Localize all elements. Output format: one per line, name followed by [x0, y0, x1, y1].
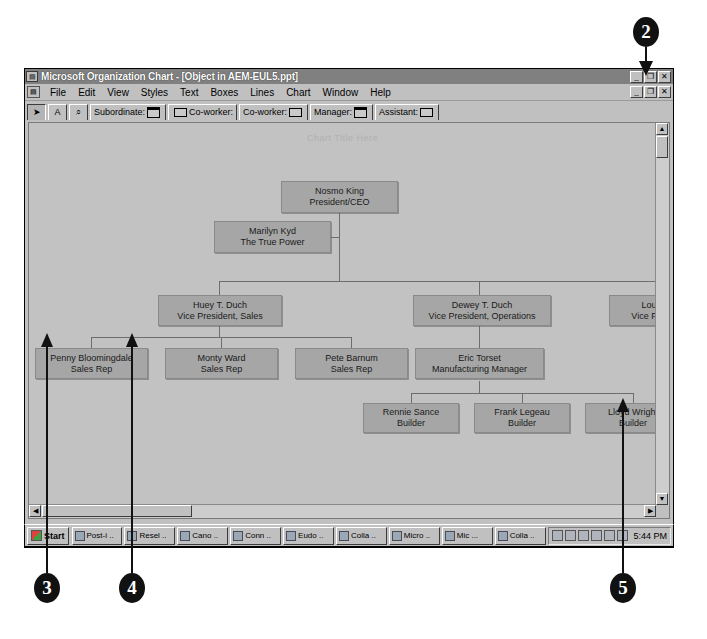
scroll-down-button[interactable]: ▼ — [656, 493, 668, 505]
org-node-builder-frank[interactable]: Frank Legeau Builder — [474, 403, 570, 433]
taskbar-item-label: Conn .. — [245, 531, 271, 540]
scroll-up-button[interactable]: ▲ — [656, 123, 668, 135]
menu-item-edit[interactable]: Edit — [72, 87, 101, 98]
org-node-builder-frank-name: Frank Legeau — [494, 407, 550, 418]
connector-bld1-drop — [411, 393, 412, 403]
text-tool[interactable]: A — [48, 104, 67, 121]
vertical-scroll-thumb[interactable] — [656, 136, 668, 158]
menu-bar: ▤ File Edit View Styles Text Boxes Lines… — [25, 84, 673, 101]
org-chart-icon[interactable]: ▤ — [26, 71, 38, 82]
callout-leader-3 — [46, 345, 48, 573]
menu-item-window[interactable]: Window — [317, 87, 365, 98]
colla-2-icon — [498, 531, 508, 541]
coworker-left-tool-label: Co-worker: — [189, 107, 233, 117]
callout-marker-5: 5 — [610, 573, 636, 603]
clock[interactable]: 5:44 PM — [634, 531, 668, 541]
org-node-vp-three[interactable]: Louie T Vice Preside — [609, 295, 656, 326]
taskbar-item-label: Post-i .. — [87, 531, 114, 540]
org-node-vp-operations[interactable]: Dewey T. Duch Vice President, Operations — [413, 295, 551, 326]
select-arrow-tool[interactable]: ➤ — [27, 104, 46, 121]
zoom-tool[interactable]: ⌕ — [69, 104, 88, 121]
assistant-tool[interactable]: Assistant: — [375, 104, 439, 121]
callout-marker-4: 4 — [119, 573, 145, 603]
org-node-vp-three-title: Vice Preside — [631, 311, 656, 322]
connector-bld2-drop — [522, 393, 523, 403]
callout-arrowhead-5 — [617, 398, 629, 412]
org-node-vp-operations-name: Dewey T. Duch — [452, 300, 512, 311]
org-node-vp-sales[interactable]: Huey T. Duch Vice President, Sales — [158, 295, 282, 326]
mdi-minimize-button[interactable]: _ — [630, 86, 643, 98]
org-node-sales-rep-monty-title: Sales Rep — [201, 364, 243, 375]
org-node-sales-rep-penny-name: Penny Bloomingdale — [50, 353, 133, 364]
menu-item-styles[interactable]: Styles — [135, 87, 174, 98]
mdi-controls: _ ❐ ✕ — [630, 86, 671, 98]
coworker-right-tool[interactable]: Co-worker: — [239, 104, 308, 121]
menu-item-boxes[interactable]: Boxes — [204, 87, 244, 98]
org-node-ceo[interactable]: Nosmo King President/CEO — [281, 181, 398, 213]
org-node-manufacturing-manager[interactable]: Eric Torset Manufacturing Manager — [415, 348, 544, 379]
taskbar-item-mic[interactable]: Mic ... — [442, 527, 493, 545]
coworker-right-tool-label: Co-worker: — [243, 107, 287, 117]
volume-icon[interactable] — [565, 530, 576, 541]
connector-vp-bus — [219, 281, 656, 282]
chart-canvas[interactable]: Chart Title Here — [29, 123, 656, 505]
document-icon[interactable]: ▤ — [27, 86, 40, 98]
client-area: Chart Title Here — [25, 120, 673, 547]
coworker-left-tool[interactable]: Co-worker: — [168, 104, 237, 121]
horizontal-scrollbar[interactable]: ◀ ▶ — [29, 504, 656, 518]
assistant-box-icon — [420, 108, 433, 117]
system-tray: 5:44 PM — [548, 527, 672, 545]
taskbar-item-cano[interactable]: Cano .. — [177, 527, 228, 545]
micro-icon — [392, 531, 402, 541]
mdi-close-button[interactable]: ✕ — [658, 86, 671, 98]
org-node-assistant[interactable]: Marilyn Kyd The True Power — [214, 221, 331, 253]
callout-marker-2: 2 — [633, 17, 659, 47]
org-node-assistant-title: The True Power — [240, 237, 304, 248]
org-node-vp-sales-name: Huey T. Duch — [193, 300, 247, 311]
scroll-right-button[interactable]: ▶ — [644, 505, 656, 517]
org-node-builder-lloyd-name: Lloyd Wright — [608, 407, 656, 418]
printer-icon[interactable] — [552, 530, 563, 541]
close-button[interactable]: ✕ — [658, 71, 671, 83]
menu-item-lines[interactable]: Lines — [244, 87, 280, 98]
connector-vpops-to-mfg — [479, 325, 480, 348]
connector-mfg-down — [479, 381, 480, 393]
pen-icon[interactable] — [604, 530, 615, 541]
taskbar-item-colla-2[interactable]: Colla .. — [495, 527, 546, 545]
connector-bld3-drop — [633, 393, 634, 403]
taskbar-item-colla-1[interactable]: Colla .. — [336, 527, 387, 545]
scrollbar-corner — [656, 505, 669, 518]
callout-leader-5 — [622, 410, 624, 573]
taskbar-item-label: Cano .. — [192, 531, 218, 540]
conn-icon — [233, 531, 243, 541]
menu-item-help[interactable]: Help — [364, 87, 397, 98]
org-node-sales-rep-penny-title: Sales Rep — [71, 364, 113, 375]
chart-canvas-frame: Chart Title Here — [28, 122, 670, 519]
scroll-left-button[interactable]: ◀ — [29, 505, 41, 517]
vertical-scrollbar[interactable]: ▲ ▼ — [655, 123, 669, 505]
menu-item-chart[interactable]: Chart — [280, 87, 316, 98]
taskbar-item-post-it[interactable]: Post-i .. — [72, 527, 123, 545]
org-node-builder-rennie-title: Builder — [397, 418, 425, 429]
menu-item-file[interactable]: File — [44, 87, 72, 98]
connector-rep1-drop — [91, 337, 92, 348]
org-node-builder-rennie[interactable]: Rennie Sance Builder — [363, 403, 459, 433]
network-icon[interactable] — [578, 530, 589, 541]
menu-item-text[interactable]: Text — [174, 87, 204, 98]
manager-tool[interactable]: Manager: — [310, 104, 373, 121]
windows-flag-icon — [31, 530, 42, 541]
taskbar-item-eudora[interactable]: Eudo .. — [283, 527, 334, 545]
mdi-restore-button[interactable]: ❐ — [644, 86, 657, 98]
horizontal-scroll-thumb[interactable] — [42, 505, 192, 517]
taskbar-item-label: Mic ... — [457, 531, 478, 540]
modem-icon[interactable] — [591, 530, 602, 541]
org-node-sales-rep-monty[interactable]: Monty Ward Sales Rep — [165, 348, 278, 379]
subordinate-tool[interactable]: Subordinate: — [90, 104, 166, 121]
callout-arrowhead-4 — [126, 333, 138, 347]
taskbar-item-micro[interactable]: Micro .. — [389, 527, 440, 545]
menu-item-view[interactable]: View — [101, 87, 135, 98]
manager-box-icon — [354, 107, 367, 118]
callout-leader-4 — [131, 345, 133, 573]
org-node-sales-rep-pete[interactable]: Pete Barnum Sales Rep — [295, 348, 408, 379]
taskbar-item-conn[interactable]: Conn .. — [230, 527, 281, 545]
